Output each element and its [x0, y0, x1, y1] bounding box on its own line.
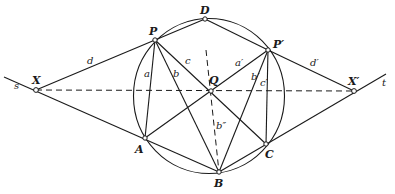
label-b2: b′ [251, 72, 260, 82]
label-A: A [135, 144, 144, 155]
label-c2: c′ [260, 78, 268, 88]
point-P2 [266, 48, 270, 52]
label-d: d [87, 56, 93, 66]
segment-d [36, 40, 155, 90]
point-X2 [352, 89, 357, 94]
segment-c2 [266, 50, 268, 144]
segment-a [145, 40, 155, 138]
label-X: X [32, 75, 41, 86]
label-a2: a′ [235, 58, 243, 68]
point-Q [209, 89, 213, 93]
label-X2: X′ [348, 76, 359, 87]
dashed-segment-b3 [206, 50, 219, 172]
label-s: s [14, 81, 19, 91]
label-B: B [214, 178, 223, 189]
point-B [217, 170, 221, 174]
point-D [203, 17, 207, 21]
label-P: P [149, 26, 157, 37]
geometry-diagram: P D P′ Q A B C X X′ d a b c a′ b′ c′ d′ … [0, 0, 395, 194]
segment-PD [155, 19, 205, 40]
label-d2: d′ [310, 58, 319, 68]
segment-b2 [219, 50, 268, 172]
point-C [264, 142, 268, 146]
label-C: C [265, 149, 274, 160]
label-P2: P′ [273, 39, 284, 50]
segment-a2 [145, 50, 268, 138]
label-D: D [200, 5, 210, 16]
label-t: t [382, 78, 386, 88]
point-P [153, 38, 157, 42]
point-A [143, 136, 147, 140]
point-X [34, 88, 39, 93]
label-b3: b″ [216, 121, 226, 131]
label-b: b [173, 69, 179, 79]
label-Q: Q [209, 75, 219, 86]
label-a: a [144, 69, 150, 79]
label-c: c [185, 56, 191, 66]
dashed-line-XX2 [36, 90, 354, 91]
diagram-lines [0, 0, 395, 194]
